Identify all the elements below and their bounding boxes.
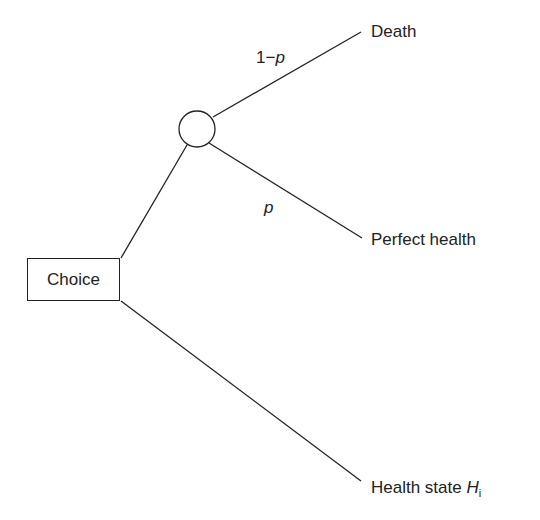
- edge-health-state: [121, 301, 361, 481]
- probability-prefix: 1−: [256, 48, 275, 67]
- probability-label-death: 1−p: [256, 48, 285, 68]
- probability-label-perfect-health: p: [264, 198, 273, 218]
- probability-var: p: [275, 48, 284, 67]
- outcome-health-state: Health state Hi: [371, 478, 481, 503]
- outcome-death: Death: [371, 22, 416, 42]
- outcome-var: H: [466, 478, 478, 497]
- edge-choice-to-chance: [121, 145, 187, 258]
- outcome-subscript: i: [479, 487, 481, 499]
- edge-death: [213, 32, 361, 117]
- edge-perfect-health: [209, 143, 362, 238]
- chance-node: [179, 111, 215, 147]
- decision-node: Choice: [27, 258, 120, 301]
- outcome-perfect-health: Perfect health: [371, 230, 476, 250]
- decision-node-label: Choice: [47, 270, 100, 290]
- outcome-prefix: Health state: [371, 478, 466, 497]
